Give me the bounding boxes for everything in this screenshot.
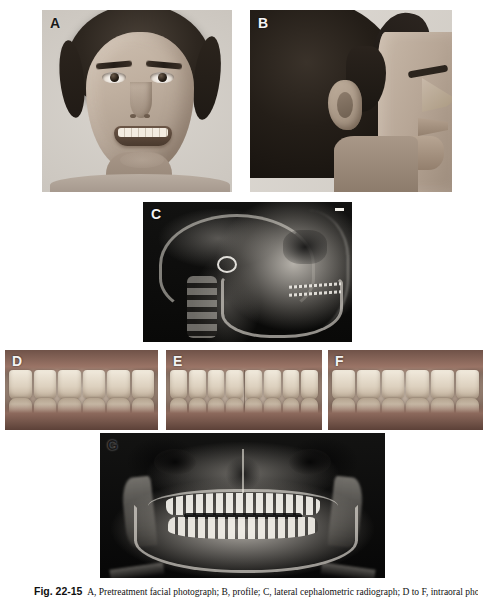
tooth [382,370,405,400]
intraoral-right-image [5,350,158,430]
tooth [264,370,281,400]
right-orbit [289,449,331,475]
right-nostril [144,114,150,118]
tooth [107,370,130,400]
nose [130,82,152,118]
figure-plate: A B C [0,0,485,598]
upper-arch [332,370,479,400]
right-pupil [158,73,167,82]
upper-dentition [166,493,320,515]
tooth [189,370,206,400]
tooth [332,370,355,400]
left-nostril [130,114,136,118]
panel-label-e: E [173,354,182,368]
chin [120,152,164,168]
panel-label-g: G [107,438,118,452]
panoramic-image [100,433,385,578]
panel-label-c: C [151,207,161,221]
panel-e-intraoral-frontal: E [166,350,322,430]
tooth [208,370,225,400]
upper-arch [9,370,154,400]
tooth [132,370,155,400]
lower-gingiva [166,404,322,430]
tooth [58,370,81,400]
tooth [9,370,32,400]
scale-marker [335,208,344,211]
tooth [301,370,318,400]
tooth [83,370,106,400]
left-orbit [154,449,196,475]
profile-face-image [250,10,452,192]
lower-gingiva [5,404,158,430]
tooth [170,370,187,400]
tooth [406,370,429,400]
panel-label-b: B [258,16,268,30]
lower-dentition [168,517,318,539]
radiopaque-ring-marker [217,256,237,273]
tooth [245,370,262,400]
figure-number: Fig. 22-15 [34,586,82,597]
maxillary-sinus [283,230,327,264]
tooth [226,370,243,400]
panel-g-panoramic-radiograph: G [100,433,385,578]
intraoral-frontal-image [166,350,322,430]
intraoral-left-image [328,350,483,430]
panel-label-d: D [12,354,22,368]
frontal-face-image [42,10,232,192]
tooth [357,370,380,400]
figure-caption: Fig. 22-15 A, Pretreatment facial photog… [34,586,478,598]
panel-d-intraoral-right: D [5,350,158,430]
tooth [431,370,454,400]
shoulders [50,174,230,192]
ear [328,80,362,130]
lower-gingiva [328,404,483,430]
cephalometric-image [143,202,352,342]
panel-label-f: F [335,354,344,368]
tooth [34,370,57,400]
panel-c-cephalometric-radiograph: C [143,202,352,342]
left-pupil [110,73,119,82]
cervical-spine [187,276,217,338]
neck [334,136,418,192]
panel-label-a: A [50,16,60,30]
nasal-septum [242,449,244,493]
panel-f-intraoral-left: F [328,350,483,430]
panel-a-frontal-photograph: A [42,10,232,192]
caption-text: A, Pretreatment facial photograph; B, pr… [87,587,478,597]
visible-teeth [118,128,168,137]
tooth [456,370,479,400]
panel-b-profile-photograph: B [250,10,452,192]
smiling-mouth [114,126,172,146]
tooth [283,370,300,400]
